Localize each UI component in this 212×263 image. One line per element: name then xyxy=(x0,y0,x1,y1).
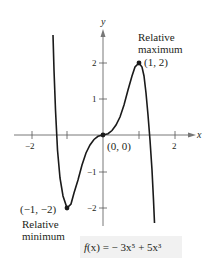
y-tick-label-2: 2 xyxy=(92,58,97,68)
equation-body: (x) = − 3x⁵ + 5x³ xyxy=(87,241,161,253)
x-axis-arrow-icon xyxy=(188,133,196,138)
x-axis-label: x xyxy=(197,129,201,141)
y-tick-label-neg2: −2 xyxy=(87,203,97,213)
origin-coords: (0, 0) xyxy=(107,140,131,152)
equation-box: f(x) = − 3x⁵ + 5x³ xyxy=(80,236,182,258)
y-tick-label-1: 1 xyxy=(92,94,97,104)
relative-maximum-coords: (1, 2) xyxy=(144,56,168,68)
relative-minimum-label-line1: Relative xyxy=(22,218,59,230)
y-axis-label: y xyxy=(101,16,105,28)
y-axis-arrow-icon xyxy=(101,29,106,37)
relative-maximum-point xyxy=(137,61,142,66)
x-tick-label-2: 2 xyxy=(172,141,177,151)
origin-point xyxy=(101,133,106,138)
relative-minimum-point xyxy=(65,206,70,211)
relative-minimum-label-line2: minimum xyxy=(22,230,65,242)
relative-maximum-label-line2: maximum xyxy=(138,43,183,55)
relative-maximum-label-line1: Relative xyxy=(138,31,175,43)
y-tick-label-neg1: −1 xyxy=(87,167,97,177)
relative-minimum-coords: (−1, −2) xyxy=(20,203,56,215)
x-tick-label-neg2: −2 xyxy=(25,141,35,151)
